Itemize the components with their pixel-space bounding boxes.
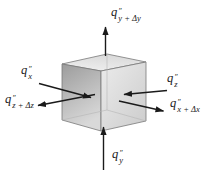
q-x-label: q″x <box>21 63 32 80</box>
cube-right-face <box>101 62 146 131</box>
q-symbol: q <box>111 5 117 19</box>
subscript: x + Δx <box>177 105 200 113</box>
q-z-plus-dz-label: q″z + Δz <box>5 92 34 109</box>
q-symbol: q <box>5 92 11 106</box>
subscript: y + Δy <box>118 14 141 22</box>
q-symbol: q <box>170 96 176 110</box>
q-symbol: q <box>112 147 118 161</box>
subscript: z + Δz <box>12 101 34 109</box>
subscript: x <box>28 72 32 80</box>
q-symbol: q <box>21 63 27 77</box>
q-x-plus-dx-label: q″x + Δx <box>170 96 200 113</box>
q-y-plus-dy-label: q″y + Δy <box>111 5 141 22</box>
q-z-label: q″z <box>167 71 178 88</box>
subscript: y <box>119 156 123 164</box>
cube-diagram <box>0 0 210 178</box>
subscript: z <box>174 80 177 88</box>
q-symbol: q <box>167 71 173 85</box>
q-y-label: q″y <box>112 147 123 164</box>
control-volume-figure: q″y + Δy q″x q″z + Δz q″z q″x + Δx q″y <box>0 0 210 178</box>
